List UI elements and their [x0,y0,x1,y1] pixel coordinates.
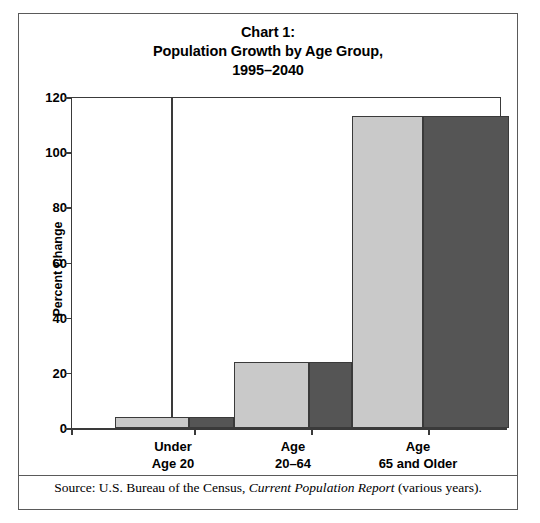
y-tick-mark-100 [65,152,71,154]
bar-age-65-older-light [352,116,423,428]
x-category-label-2: Age65 and Older [328,439,508,472]
y-tick-label-40: 40 [23,310,67,325]
chart-title-line-3: 1995–2040 [19,61,517,80]
bar-under-age-20-light [115,417,189,428]
chart-title-line-2: Population Growth by Age Group, [19,42,517,61]
y-tick-label-120: 120 [23,90,67,105]
plot-area [71,97,501,428]
category-divider-line [171,97,173,428]
chart-title: Chart 1: Population Growth by Age Group,… [19,23,517,80]
x-tick-mark-3 [428,428,430,435]
bar-age-20-64-dark [309,362,352,428]
source-publication: Current Population Report [249,480,395,495]
source-suffix: (various years). [395,480,482,495]
y-tick-label-60: 60 [23,255,67,270]
source-divider [19,475,517,476]
y-tick-mark-40 [65,318,71,320]
x-axis-baseline [65,428,507,430]
y-tick-mark-120 [65,97,71,99]
chart-figure: Chart 1: Population Growth by Age Group,… [18,13,518,510]
bar-age-65-older-dark [423,116,509,428]
y-tick-label-0: 0 [23,421,67,436]
x-category-label-2-line-1: 65 and Older [328,456,508,473]
bar-under-age-20-dark [189,417,234,428]
bar-age-20-64-light [234,362,309,428]
source-prefix: Source: U.S. Bureau of the Census, [54,480,249,495]
source-note: Source: U.S. Bureau of the Census, Curre… [19,480,517,496]
x-tick-mark-2 [311,428,313,435]
x-tick-mark-0 [71,428,73,435]
y-tick-mark-80 [65,207,71,209]
y-tick-mark-20 [65,373,71,375]
x-tick-mark-1 [194,428,196,435]
y-tick-label-100: 100 [23,145,67,160]
y-tick-label-20: 20 [23,365,67,380]
y-tick-mark-60 [65,263,71,265]
chart-title-line-1: Chart 1: [19,23,517,42]
y-tick-label-80: 80 [23,200,67,215]
x-category-label-2-line-0: Age [328,439,508,456]
y-axis: Percent Change 020406080100120 [19,97,67,428]
